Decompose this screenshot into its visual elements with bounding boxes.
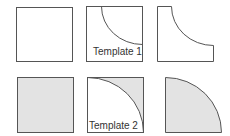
filled-square [18, 78, 74, 133]
plain-square [17, 8, 73, 62]
template-1-label: Template 1 [93, 46, 142, 57]
template-2-label: Template 2 [89, 120, 138, 131]
result-2-shape [166, 78, 222, 133]
result-1-shape [158, 7, 214, 62]
template-2-square: Template 2 [88, 78, 144, 133]
template-diagram: Template 1 Template 2 [0, 0, 230, 136]
template-1-arc [102, 7, 143, 45]
template-1-square: Template 1 [87, 7, 143, 62]
